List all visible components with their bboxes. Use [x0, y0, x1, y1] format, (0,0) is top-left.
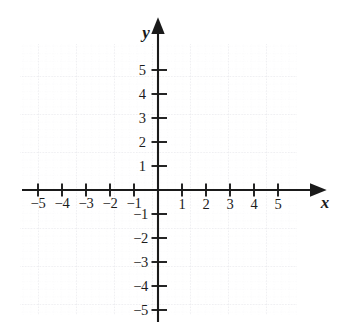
- y-tick-label-2: 2: [139, 134, 146, 150]
- x-tick-label--5: −5: [31, 195, 46, 211]
- x-tick-label-5: 5: [274, 196, 281, 212]
- y-tick-label--4: −4: [133, 278, 149, 294]
- x-tick-label--3: −3: [79, 195, 94, 211]
- y-tick-label-5: 5: [139, 62, 146, 78]
- y-tick-label-1: 1: [139, 158, 146, 174]
- y-tick-label-3: 3: [139, 110, 146, 126]
- x-tick-label-1: 1: [178, 196, 185, 212]
- y-axis-ticks-negative: [152, 214, 168, 310]
- y-tick-labels-positive: 1 2 3 4 5: [139, 62, 147, 174]
- x-tick-labels-positive: 1 2 3 4 5: [178, 196, 281, 212]
- y-tick-label-4: 4: [139, 86, 147, 102]
- y-axis-ticks-positive: [152, 70, 168, 166]
- y-tick-label--5: −5: [133, 302, 148, 318]
- x-tick-label-2: 2: [202, 196, 209, 212]
- y-tick-label--1: −1: [133, 206, 148, 222]
- y-axis-label: y: [140, 23, 150, 42]
- x-tick-label--2: −2: [103, 195, 118, 211]
- y-tick-label--3: −3: [133, 254, 148, 270]
- axes-layer: −5 −4 −3 −2 −1 1 2 3 4 5 1 2 3 4 5 −1 −2…: [0, 0, 343, 329]
- y-tick-label--2: −2: [133, 230, 148, 246]
- x-tick-label-4: 4: [250, 196, 258, 212]
- x-axis-label: x: [320, 193, 330, 212]
- x-tick-labels-negative: −5 −4 −3 −2 −1: [31, 195, 142, 211]
- x-tick-label--4: −4: [55, 195, 71, 211]
- coordinate-plane-figure: −5 −4 −3 −2 −1 1 2 3 4 5 1 2 3 4 5 −1 −2…: [0, 0, 343, 329]
- y-tick-labels-negative: −1 −2 −3 −4 −5: [133, 206, 149, 318]
- x-tick-label-3: 3: [226, 196, 233, 212]
